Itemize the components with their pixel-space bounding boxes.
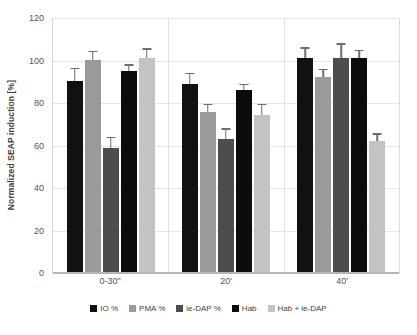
bar-slot	[369, 18, 385, 272]
y-axis-tick: 120	[29, 13, 44, 23]
y-axis-tick: 40	[34, 183, 44, 193]
bar[interactable]	[139, 58, 155, 272]
bar-slot	[182, 18, 198, 272]
bar[interactable]	[67, 81, 83, 272]
error-bar-cap	[106, 137, 115, 139]
bar[interactable]	[121, 71, 137, 272]
bar-slot	[121, 18, 137, 272]
error-bar-cap	[301, 47, 310, 49]
error-bar-cap	[355, 50, 364, 52]
y-axis-tick: 80	[34, 98, 44, 108]
bar-slot	[351, 18, 367, 272]
error-bar-cap	[257, 104, 266, 106]
x-axis-category-labels: 0-30"20'40'	[52, 276, 400, 294]
error-bar-cap	[88, 51, 97, 53]
legend-label: PMA %	[139, 304, 165, 313]
legend-swatch-icon	[90, 305, 97, 312]
bar-slot	[218, 18, 234, 272]
bar-slot	[297, 18, 313, 272]
error-bar-cap	[239, 84, 248, 86]
error-bar-cap	[221, 128, 230, 130]
y-axis-tick-labels: 020406080100120	[18, 18, 48, 273]
error-bar-cap	[373, 133, 382, 135]
bar-group	[284, 18, 399, 272]
error-bar-cap	[337, 43, 346, 45]
legend-label: ie-DAP %	[186, 304, 221, 313]
x-axis-category-label: 0-30"	[52, 276, 168, 294]
bar[interactable]	[369, 141, 385, 272]
bar-slot	[67, 18, 83, 272]
bar-group	[168, 18, 283, 272]
x-axis-category-label: 20'	[168, 276, 284, 294]
legend-swatch-icon	[268, 305, 275, 312]
bar[interactable]	[182, 84, 198, 272]
bar-slot	[254, 18, 270, 272]
bar-groups	[53, 18, 399, 272]
error-bar-cap	[142, 48, 151, 50]
y-axis-tick: 60	[34, 141, 44, 151]
legend-item[interactable]: IO %	[90, 304, 118, 313]
legend-label: Hab + ie-DAP	[278, 304, 327, 313]
bar-slot	[139, 18, 155, 272]
bar[interactable]	[236, 90, 252, 272]
bar[interactable]	[200, 112, 216, 272]
plot-area	[52, 18, 400, 273]
bar-slot	[333, 18, 349, 272]
legend-item[interactable]: PMA %	[129, 304, 165, 313]
error-bar-cap	[185, 73, 194, 75]
y-axis-tick: 100	[29, 56, 44, 66]
gridline	[53, 273, 399, 274]
legend-swatch-icon	[176, 305, 183, 312]
bar[interactable]	[297, 58, 313, 272]
error-bar-cap	[319, 69, 328, 71]
bar[interactable]	[254, 115, 270, 272]
bar[interactable]	[103, 148, 119, 272]
legend-label: Hab	[242, 304, 257, 313]
bar-slot	[200, 18, 216, 272]
bar[interactable]	[218, 139, 234, 272]
legend-item[interactable]: Hab + ie-DAP	[268, 304, 327, 313]
y-axis-title-text: Normalized SEAP induction [%]	[6, 80, 16, 210]
bar-chart: Normalized SEAP induction [%] 0204060801…	[0, 0, 417, 335]
error-bar-cap	[203, 104, 212, 106]
legend-swatch-icon	[232, 305, 239, 312]
chart-legend: IO %PMA %ie-DAP %HabHab + ie-DAP	[0, 304, 417, 313]
bar[interactable]	[333, 58, 349, 272]
bar[interactable]	[351, 58, 367, 272]
bar-group	[53, 18, 168, 272]
legend-item[interactable]: Hab	[232, 304, 257, 313]
y-axis-tick: 0	[39, 268, 44, 278]
error-bar-cap	[124, 64, 133, 66]
bar-slot	[103, 18, 119, 272]
bar[interactable]	[315, 77, 331, 273]
legend-label: IO %	[100, 304, 118, 313]
bar-slot	[315, 18, 331, 272]
bar[interactable]	[85, 60, 101, 273]
bar-slot	[85, 18, 101, 272]
legend-swatch-icon	[129, 305, 136, 312]
error-bar-cap	[70, 68, 79, 70]
legend-item[interactable]: ie-DAP %	[176, 304, 221, 313]
y-axis-tick: 20	[34, 226, 44, 236]
bar-slot	[236, 18, 252, 272]
x-axis-category-label: 40'	[284, 276, 400, 294]
